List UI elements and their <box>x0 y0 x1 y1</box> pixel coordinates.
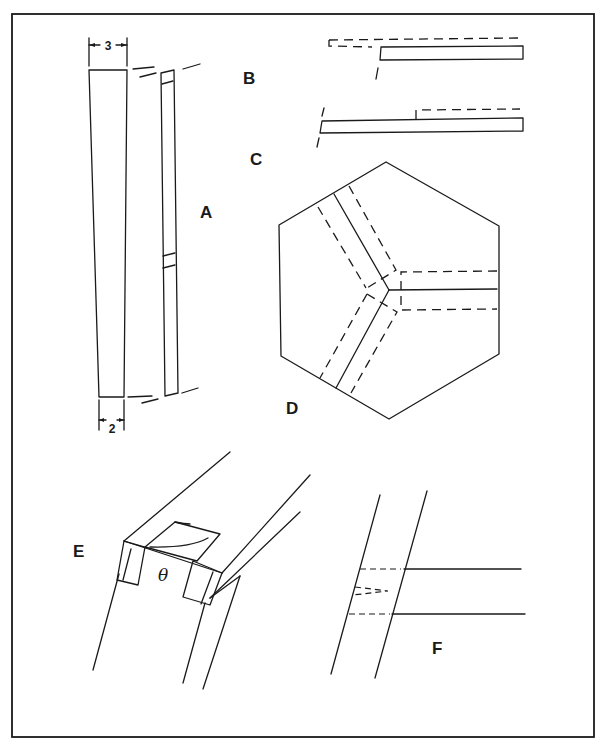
label-e: E <box>73 542 84 561</box>
label-d: D <box>286 399 298 418</box>
label-a: A <box>200 203 212 222</box>
angle-theta: θ <box>158 565 168 585</box>
panel-a: 3 2 A <box>89 38 212 436</box>
strip-b <box>380 46 523 60</box>
technical-figure: 3 2 A B C <box>0 0 602 743</box>
panel-d: D <box>279 162 499 419</box>
figure-frame <box>12 14 594 737</box>
bottom-dimension: 2 <box>99 400 124 436</box>
tapered-stave-side <box>161 70 178 396</box>
tapered-stave-front <box>89 70 127 397</box>
label-b: B <box>243 69 255 88</box>
strip-c <box>320 118 523 133</box>
top-width-label: 3 <box>105 39 112 53</box>
label-f: F <box>432 639 442 658</box>
top-dimension: 3 <box>89 38 127 66</box>
label-c: C <box>250 150 262 169</box>
panel-c: C <box>250 108 523 169</box>
bottom-width-label: 2 <box>109 422 116 436</box>
panel-f: F <box>331 491 525 678</box>
panel-e: E θ <box>73 452 310 689</box>
panel-b: B <box>243 38 523 88</box>
